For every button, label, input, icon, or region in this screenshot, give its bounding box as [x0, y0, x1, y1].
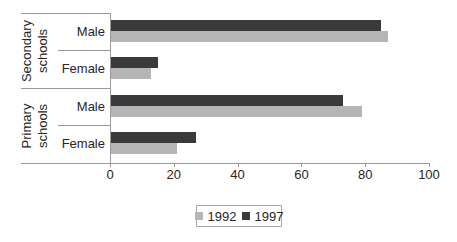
x-tick-label-20: 20: [160, 167, 188, 182]
x-tick-label-0: 0: [96, 167, 124, 182]
bar-1992-secondary-schools-male: [110, 31, 388, 42]
bar-chart: 020406080100 MaleFemaleMaleFemale Second…: [0, 0, 457, 242]
category-label-secondary-schools-male: Male: [56, 24, 105, 40]
bar-1992-primary-schools-female: [110, 143, 177, 154]
group-label-secondary-schools: Secondary schools: [19, 11, 53, 91]
group-label-primary-schools: Primary schools: [19, 86, 53, 166]
category-label-primary-schools-male: Male: [56, 99, 105, 115]
plot-area: [110, 13, 429, 163]
x-axis-line: [21, 163, 430, 164]
legend-swatch-1992: [195, 212, 203, 220]
category-label-primary-schools-female: Female: [56, 136, 105, 152]
category-label-secondary-schools-female: Female: [56, 61, 105, 77]
x-tick-label-80: 80: [351, 167, 379, 182]
bar-1997-primary-schools-female: [110, 132, 196, 143]
x-tick-label-100: 100: [415, 167, 443, 182]
x-tick-label-40: 40: [224, 167, 252, 182]
x-tick-label-60: 60: [287, 167, 315, 182]
legend-label-1997: 1997: [255, 209, 284, 224]
y-axis-line: [110, 13, 111, 163]
minor-divider-primary: [58, 125, 110, 126]
legend-swatch-1997: [242, 212, 250, 220]
bar-1997-secondary-schools-male: [110, 20, 381, 31]
bar-1997-primary-schools-male: [110, 95, 343, 106]
legend: 1992 1997: [196, 205, 282, 227]
minor-divider-secondary: [58, 50, 110, 51]
bar-1992-primary-schools-male: [110, 106, 362, 117]
bar-1992-secondary-schools-female: [110, 68, 151, 79]
legend-label-1992: 1992: [208, 209, 237, 224]
bar-1997-secondary-schools-female: [110, 57, 158, 68]
